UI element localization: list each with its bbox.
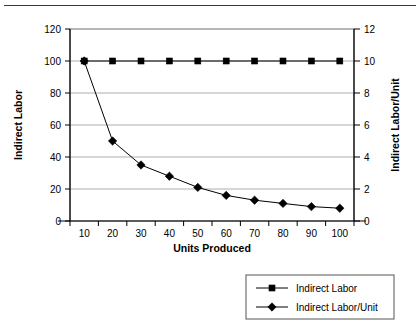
data-point (336, 204, 344, 212)
gridlines-group (70, 61, 354, 189)
data-point (223, 58, 229, 64)
right-axis-ticks: 024681012 (354, 24, 376, 227)
x-tick-label: 60 (221, 228, 233, 239)
legend-marker-square-icon (269, 285, 275, 291)
left-tick-label: 20 (50, 184, 62, 195)
legend-label: Indirect Labor/Unit (296, 302, 378, 313)
data-point (337, 58, 343, 64)
data-point (279, 199, 287, 207)
data-point (166, 58, 172, 64)
y-axis-title: Indirect Labor (12, 90, 24, 160)
right-tick-label: 2 (364, 184, 370, 195)
right-tick-label: 8 (364, 88, 370, 99)
x-tick-label: 100 (331, 228, 348, 239)
right-tick-label: 0 (364, 216, 370, 227)
data-point (110, 58, 116, 64)
series-line (84, 61, 340, 208)
data-point (138, 58, 144, 64)
right-tick-label: 10 (364, 56, 376, 67)
left-axis-ticks: 020406080100120 (44, 24, 70, 227)
left-tick-label: 80 (50, 88, 62, 99)
y2-axis-title: Indirect Labor/Unit (389, 78, 401, 172)
data-point (222, 191, 230, 199)
data-point (165, 172, 173, 180)
left-tick-label: 0 (55, 216, 61, 227)
x-axis-title: Units Produced (173, 242, 251, 254)
data-point (280, 58, 286, 64)
x-tick-label: 30 (135, 228, 147, 239)
data-point (195, 58, 201, 64)
right-tick-label: 4 (364, 152, 370, 163)
data-point (308, 58, 314, 64)
chart-canvas: 020406080100120 024681012 10203040506070… (0, 0, 420, 329)
left-tick-label: 40 (50, 152, 62, 163)
left-tick-label: 120 (44, 24, 61, 35)
right-tick-label: 6 (364, 120, 370, 131)
x-tick-label: 70 (249, 228, 261, 239)
data-point (307, 202, 315, 210)
legend-label: Indirect Labor (296, 283, 358, 294)
chart-figure: 020406080100120 024681012 10203040506070… (0, 0, 420, 329)
legend[interactable]: Indirect LaborIndirect Labor/Unit (246, 275, 394, 319)
series-square (81, 58, 343, 64)
x-tick-label: 10 (79, 228, 91, 239)
x-axis-ticks: 102030405060708090100 (70, 221, 354, 239)
data-point (194, 183, 202, 191)
x-tick-label: 50 (192, 228, 204, 239)
x-tick-label: 40 (164, 228, 176, 239)
right-tick-label: 12 (364, 24, 376, 35)
data-point (252, 58, 258, 64)
data-point (250, 196, 258, 204)
x-tick-label: 20 (107, 228, 119, 239)
left-tick-label: 60 (50, 120, 62, 131)
x-tick-label: 90 (306, 228, 318, 239)
left-tick-label: 100 (44, 56, 61, 67)
x-tick-label: 80 (277, 228, 289, 239)
